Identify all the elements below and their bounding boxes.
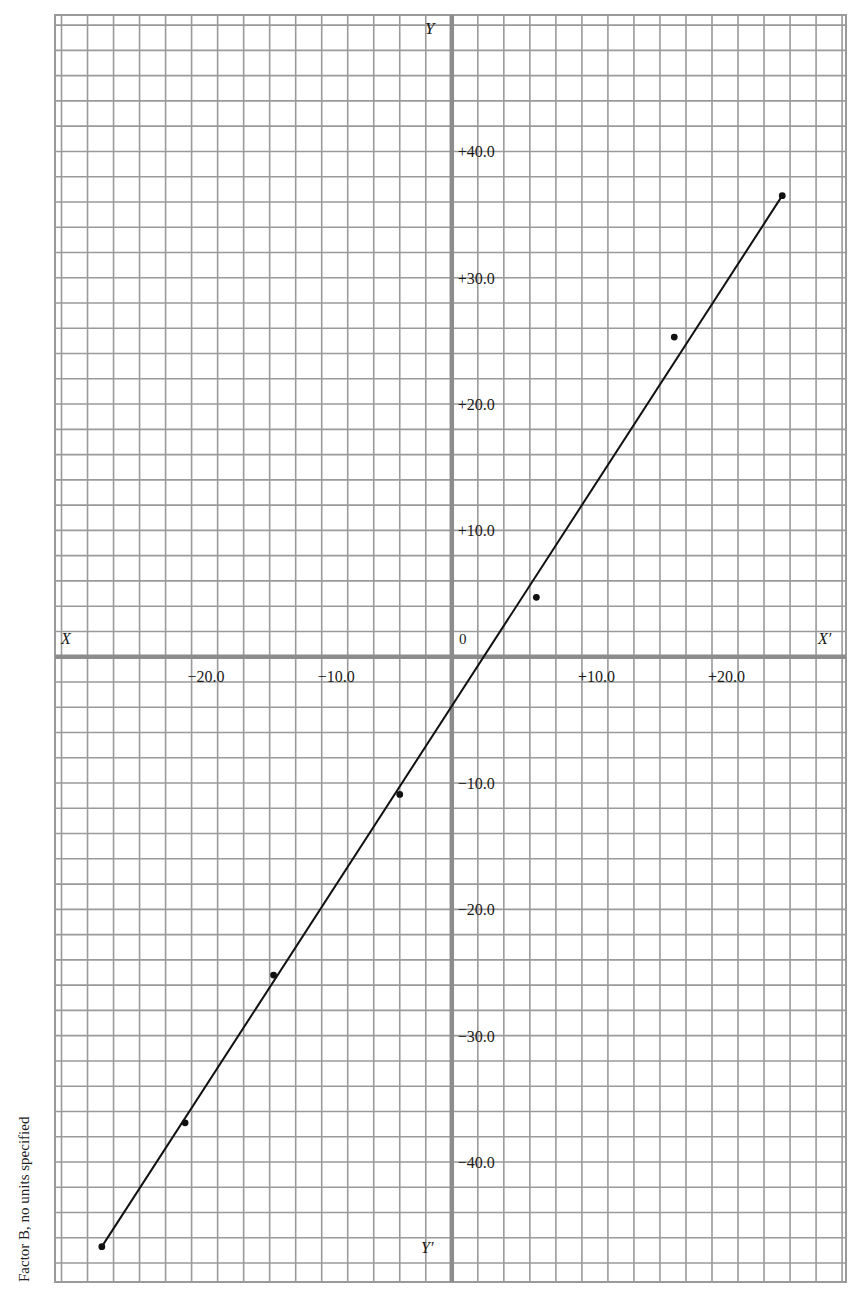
data-point xyxy=(98,1243,105,1250)
data-point xyxy=(779,192,786,199)
side-caption: Factor B, no units specified xyxy=(16,1117,33,1282)
chart-plot: −20.0−10.0+10.0+20.0+40.0+30.0+20.0+10.0… xyxy=(0,0,862,1307)
origin-label: 0 xyxy=(459,631,467,647)
axis-label-y: Y xyxy=(425,19,436,38)
axis-label-y-prime: Y′ xyxy=(421,1239,434,1256)
x-tick-label: −20.0 xyxy=(188,668,225,685)
y-tick-label: +30.0 xyxy=(458,270,495,287)
y-tick-label: −10.0 xyxy=(458,775,495,792)
data-series xyxy=(98,192,785,1250)
y-tick-label: −40.0 xyxy=(458,1154,495,1171)
x-tick-label: −10.0 xyxy=(318,668,355,685)
y-tick-label: −20.0 xyxy=(458,901,495,918)
data-point xyxy=(671,334,678,341)
y-tick-label: +40.0 xyxy=(458,143,495,160)
data-point xyxy=(533,594,540,601)
axis-label-x-prime: X′ xyxy=(817,630,832,647)
y-tick-label: +10.0 xyxy=(458,522,495,539)
axes xyxy=(55,15,846,1282)
axis-names: Y Y′ X X′ 0 xyxy=(60,19,832,1256)
data-point xyxy=(270,972,277,979)
axis-label-x: X xyxy=(60,630,72,647)
x-tick-label: +10.0 xyxy=(578,668,615,685)
y-tick-label: +20.0 xyxy=(458,396,495,413)
data-point xyxy=(396,791,403,798)
y-tick-label: −30.0 xyxy=(458,1028,495,1045)
data-point xyxy=(182,1119,189,1126)
x-tick-label: +20.0 xyxy=(708,668,745,685)
